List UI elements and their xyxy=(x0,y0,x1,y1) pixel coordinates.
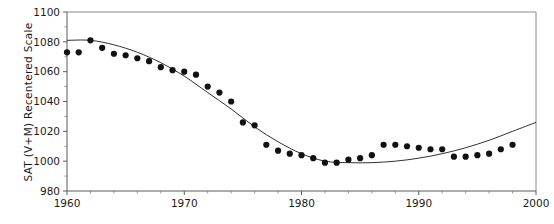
data-point xyxy=(427,146,433,152)
data-point xyxy=(287,151,293,157)
data-point xyxy=(380,142,386,148)
scatter-plot-svg: 980100010201040106010801100 196019701980… xyxy=(0,0,554,224)
x-tick-label: 2000 xyxy=(523,197,550,209)
data-point xyxy=(76,49,82,55)
data-point xyxy=(158,64,164,70)
data-point xyxy=(392,142,398,148)
data-point xyxy=(87,37,93,43)
x-tick-label: 1990 xyxy=(405,197,432,209)
data-point xyxy=(181,69,187,75)
data-point xyxy=(252,122,258,128)
y-axis-title: SAT (V+M) Recentered Scale xyxy=(22,12,34,192)
y-tick-label: 980 xyxy=(40,185,60,197)
data-point xyxy=(146,58,152,64)
data-point xyxy=(357,155,363,161)
data-point xyxy=(205,83,211,89)
y-tick-label: 1000 xyxy=(33,155,60,167)
data-point xyxy=(193,72,199,78)
y-tick-label: 1060 xyxy=(33,65,60,77)
plot-frame xyxy=(67,12,536,191)
data-points xyxy=(64,37,516,166)
data-point xyxy=(99,45,105,51)
data-point xyxy=(169,67,175,73)
data-point xyxy=(439,146,445,152)
data-point xyxy=(228,98,234,104)
data-point xyxy=(404,143,410,149)
data-point xyxy=(463,154,469,160)
data-point xyxy=(498,146,504,152)
data-point xyxy=(474,152,480,158)
data-point xyxy=(298,152,304,158)
data-point xyxy=(334,160,340,166)
data-point xyxy=(509,142,515,148)
data-point xyxy=(240,119,246,125)
x-axis-ticks: 19601970198019902000 xyxy=(54,191,550,209)
data-point xyxy=(486,151,492,157)
data-point xyxy=(275,148,281,154)
chart-container: SAT (V+M) Recentered Scale 9801000102010… xyxy=(0,0,554,224)
y-tick-label: 1100 xyxy=(33,6,60,18)
data-point xyxy=(345,157,351,163)
data-point xyxy=(111,51,117,57)
y-tick-label: 1040 xyxy=(33,95,60,107)
data-point xyxy=(310,155,316,161)
data-point xyxy=(134,55,140,61)
data-point xyxy=(123,52,129,58)
data-point xyxy=(416,145,422,151)
data-point xyxy=(322,160,328,166)
data-point xyxy=(64,49,70,55)
data-point xyxy=(216,89,222,95)
x-tick-label: 1970 xyxy=(171,197,198,209)
y-axis-ticks: 980100010201040106010801100 xyxy=(33,6,67,197)
x-tick-label: 1960 xyxy=(54,197,81,209)
data-point xyxy=(451,154,457,160)
y-tick-label: 1020 xyxy=(33,125,60,137)
data-point xyxy=(263,142,269,148)
x-tick-label: 1980 xyxy=(288,197,315,209)
data-point xyxy=(369,152,375,158)
y-tick-label: 1080 xyxy=(33,36,60,48)
